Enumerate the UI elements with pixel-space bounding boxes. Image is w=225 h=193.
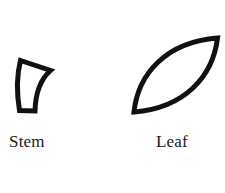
stem-path [18, 61, 51, 112]
stem-label: Stem [9, 133, 45, 150]
leaf-label: Leaf [156, 133, 188, 150]
leaf-path [134, 38, 218, 112]
figure-canvas: Stem Leaf [0, 0, 225, 193]
leaf-outline-shape [120, 0, 225, 125]
stem-outline-shape [0, 0, 70, 125]
